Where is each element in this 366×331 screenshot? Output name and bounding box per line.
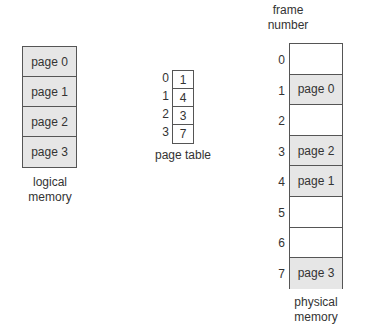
frame-number-5: 5 (273, 206, 285, 220)
page-table-entry-2: 3 (173, 107, 193, 125)
frame-number-4: 4 (273, 175, 285, 189)
frame-number-header: frame number (262, 3, 314, 33)
logical-page-1: page 1 (23, 77, 76, 107)
page-table-entry-0: 1 (173, 71, 193, 89)
logical-page-3: page 3 (23, 137, 76, 167)
page-table: 1 4 3 7 (172, 70, 194, 144)
page-table-index-1: 1 (157, 89, 169, 103)
frame-number-header-line2: number (262, 18, 314, 33)
physical-memory: page 0 page 2 page 1 page 3 (289, 43, 343, 289)
frame-number-0: 0 (273, 53, 285, 67)
logical-memory-label-line1: logical (10, 175, 90, 190)
frame-number-1: 1 (273, 84, 285, 98)
frame-7: page 3 (290, 258, 342, 289)
frame-2 (290, 105, 342, 136)
frame-number-2: 2 (273, 114, 285, 128)
physical-memory-label-line1: physical (276, 295, 356, 310)
logical-memory-label-line2: memory (10, 190, 90, 205)
physical-memory-label-line2: memory (276, 310, 356, 325)
page-table-index-3: 3 (157, 125, 169, 139)
page-table-entry-3: 7 (173, 125, 193, 143)
page-table-entry-1: 4 (173, 89, 193, 107)
frame-number-7: 7 (273, 267, 285, 281)
frame-1: page 0 (290, 75, 342, 106)
frame-5 (290, 197, 342, 228)
frame-number-header-line1: frame (262, 3, 314, 18)
logical-page-2: page 2 (23, 107, 76, 137)
page-table-index-2: 2 (157, 107, 169, 121)
physical-memory-label: physical memory (276, 295, 356, 325)
frame-0 (290, 44, 342, 75)
logical-page-0: page 0 (23, 47, 76, 77)
logical-memory: page 0 page 1 page 2 page 3 (22, 46, 77, 168)
frame-3: page 2 (290, 136, 342, 167)
frame-4: page 1 (290, 166, 342, 197)
page-table-index-0: 0 (157, 71, 169, 85)
frame-6 (290, 228, 342, 259)
frame-number-3: 3 (273, 145, 285, 159)
logical-memory-label: logical memory (10, 175, 90, 205)
frame-number-6: 6 (273, 236, 285, 250)
page-table-label: page table (143, 148, 223, 163)
